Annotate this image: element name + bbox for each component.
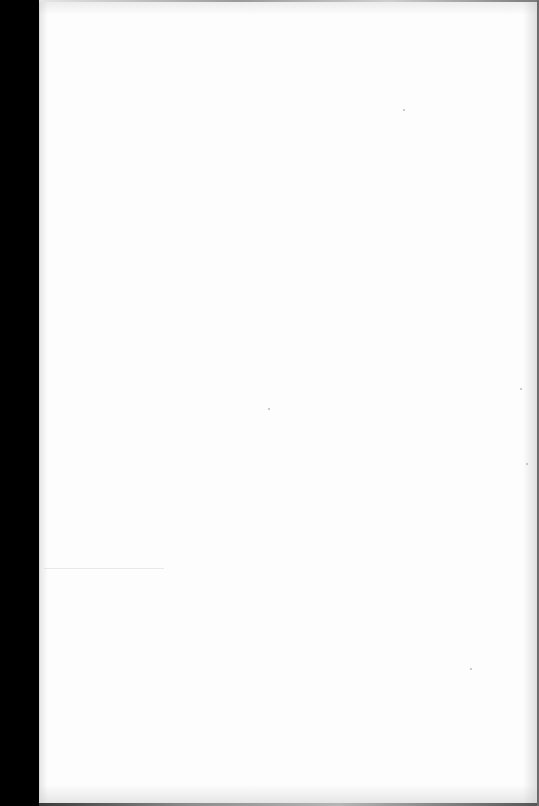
top-scan-edge (39, 0, 539, 2)
scan-speck (520, 388, 522, 390)
scan-speck (526, 463, 528, 465)
scan-speck (470, 668, 472, 670)
binding-strip (0, 0, 40, 806)
scan-fold-line (44, 568, 164, 569)
scan-speck (268, 408, 270, 410)
blank-page (39, 1, 539, 803)
scan-speck (403, 109, 405, 111)
scanned-page-view (0, 0, 539, 806)
page-content (40, 1, 539, 803)
